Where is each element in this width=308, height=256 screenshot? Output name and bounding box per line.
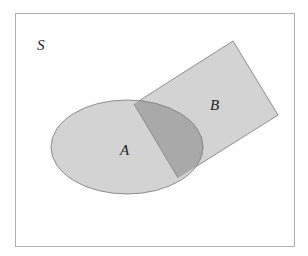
set-a-label: A <box>119 142 130 158</box>
venn-diagram: S A B <box>0 0 308 256</box>
universe-label: S <box>37 37 45 53</box>
set-b-label: B <box>210 97 219 113</box>
